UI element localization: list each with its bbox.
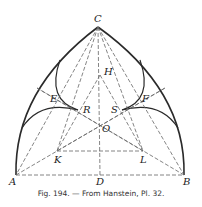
label-O: O [102,124,110,134]
cusp-right [122,107,178,128]
label-K: K [54,155,61,165]
cusp-top [56,60,145,110]
label-F: F [142,94,149,104]
label-A: A [9,177,16,187]
label-S: S [111,105,118,115]
label-B: B [183,177,190,187]
label-D: D [96,177,104,187]
label-L: L [140,155,147,165]
cusp-left [22,107,78,128]
label-E: E [50,94,57,104]
construction-lines [16,27,184,175]
figure-caption: Fig. 194. — From Hanstein, Pl. 32. [0,189,202,198]
label-C: C [94,14,102,24]
label-R: R [83,105,91,115]
label-H: H [104,67,113,77]
